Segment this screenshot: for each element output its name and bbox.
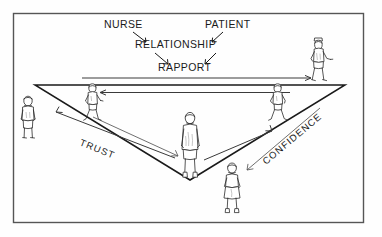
diagram-svg: NURSE PATIENT RELATIONSHIP RAPPORT [0, 0, 382, 237]
figure-bottom-right [224, 163, 240, 213]
confidence-arrow-up-right [204, 125, 272, 160]
label-nurse: NURSE [104, 18, 143, 30]
rapport-arrow-leftward [100, 90, 290, 95]
figure-center-standing [182, 112, 200, 177]
label-confidence: CONFIDENCE [260, 111, 324, 167]
rapport-arrow-rightward [82, 75, 311, 80]
figure-left-vertex [21, 96, 35, 138]
figure-top-right-nurse [311, 38, 333, 81]
label-trust: TRUST [78, 137, 117, 161]
figure-upper-right-walking [269, 84, 288, 120]
diagram-canvas: NURSE PATIENT RELATIONSHIP RAPPORT [0, 0, 382, 237]
label-patient: PATIENT [205, 18, 251, 30]
patient-to-relationship-arrow [212, 32, 223, 42]
label-relationship: RELATIONSHIP [135, 38, 216, 50]
figure-upper-left-walking [84, 84, 103, 120]
